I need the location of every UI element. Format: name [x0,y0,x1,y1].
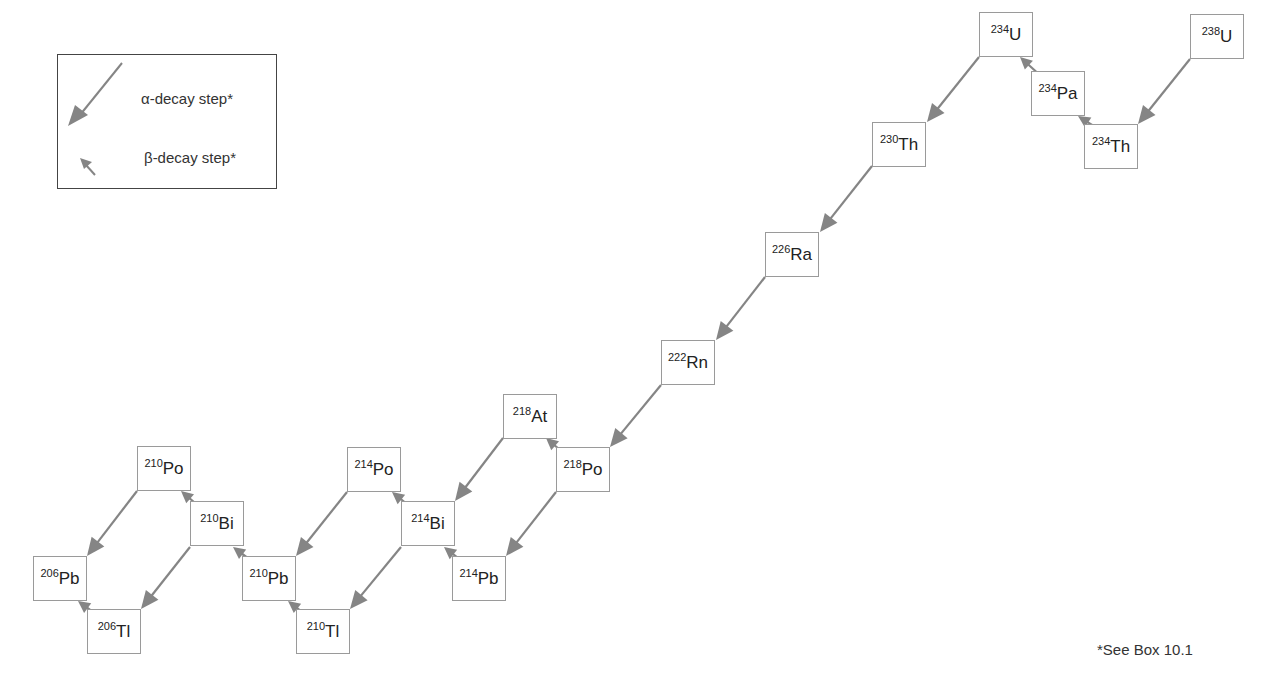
nuclide-box-po214: 214Po [347,447,401,492]
nuclide-box-pb214: 214Pb [452,556,506,601]
mass-number: 210 [307,620,325,632]
mass-number: 206 [98,620,116,632]
alpha-decay-arrow-icon [350,547,401,609]
alpha-decay-arrow-icon [927,57,979,122]
nuclide-box-tl206: 206Tl [87,609,141,654]
alpha-decay-arrow-icon [506,492,556,556]
mass-number: 230 [880,133,898,145]
nuclide-box-th230: 230Th [872,122,926,167]
nuclide-box-pb210: 210Pb [242,556,296,601]
mass-number: 238 [1202,25,1220,37]
mass-number: 234 [991,23,1009,35]
footnote: *See Box 10.1 [1097,641,1193,658]
beta-arrow-icon [80,158,95,175]
alpha-decay-label: α-decay step* [141,90,233,107]
element-symbol: Pb [478,569,499,589]
alpha-decay-arrow-icon [455,438,503,501]
element-symbol: U [1220,27,1232,47]
alpha-decay-arrow-icon [716,277,765,340]
mass-number: 218 [563,458,581,470]
alpha-decay-arrow-icon [610,385,661,447]
element-symbol: Pa [1057,84,1078,104]
element-symbol: U [1009,25,1021,45]
nuclide-box-tl210: 210Tl [296,609,350,654]
alpha-arrow-icon [68,63,122,126]
element-symbol: Pb [59,569,80,589]
mass-number: 210 [200,512,218,524]
nuclide-box-pb206: 206Pb [33,556,87,601]
alpha-decay-arrow-icon [296,492,347,556]
mass-number: 206 [40,567,58,579]
nuclide-box-rn222: 222Rn [661,340,715,385]
mass-number: 222 [668,351,686,363]
nuclide-box-bi214: 214Bi [401,501,455,546]
alpha-decay-arrow-icon [1138,59,1190,124]
mass-number: 210 [249,567,267,579]
element-symbol: Th [898,135,918,155]
nuclide-box-po218: 218Po [556,447,610,492]
element-symbol: Po [163,459,184,479]
element-symbol: Bi [430,514,445,534]
alpha-decay-arrow-icon [820,166,872,232]
element-symbol: Tl [325,622,339,642]
mass-number: 234 [1038,82,1056,94]
mass-number: 214 [354,458,372,470]
legend: α-decay step* β-decay step* [57,54,277,189]
nuclide-box-bi210: 210Bi [190,501,244,546]
nuclide-box-u234: 234U [979,12,1033,57]
nuclide-box-pa234: 234Pa [1031,71,1085,116]
mass-number: 210 [144,457,162,469]
element-symbol: Po [373,460,394,480]
beta-decay-label: β-decay step* [144,149,236,166]
element-symbol: Tl [116,622,130,642]
mass-number: 218 [513,405,531,417]
element-symbol: Rn [686,353,708,373]
element-symbol: Po [582,460,603,480]
legend-icons [58,55,278,190]
nuclide-box-u238: 238U [1190,14,1244,59]
mass-number: 214 [411,512,429,524]
alpha-decay-arrow-icon [141,547,190,609]
mass-number: 226 [772,243,790,255]
element-symbol: At [531,407,547,427]
nuclide-box-po210: 210Po [137,446,191,491]
element-symbol: Ra [790,245,812,265]
element-symbol: Pb [268,569,289,589]
nuclide-box-at218: 218At [503,394,557,439]
alpha-decay-arrow-icon [87,491,137,556]
element-symbol: Bi [219,514,234,534]
element-symbol: Th [1110,137,1130,157]
mass-number: 214 [459,567,477,579]
nuclide-box-th234: 234Th [1084,124,1138,169]
nuclide-box-ra226: 226Ra [765,232,819,277]
mass-number: 234 [1092,135,1110,147]
